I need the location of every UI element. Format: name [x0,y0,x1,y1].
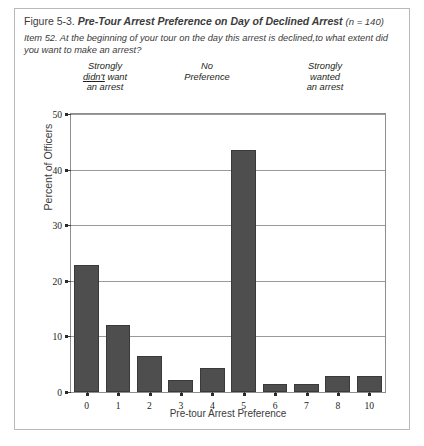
anchor-low-line2: didn't want [59,72,151,83]
bar [74,265,99,392]
bar [200,368,225,392]
bar [168,380,193,392]
x-axis-title: Pre-tour Arrest Preference [70,408,386,419]
y-gridline [71,281,385,282]
y-axis-tick-marker [65,391,68,394]
x-axis-tick-marker [117,393,120,396]
figure-item-text: Item 52. At the beginning of your tour o… [24,33,402,56]
bar [357,376,382,392]
bar [137,356,162,392]
figure-sample-size: (n = 140) [346,16,384,27]
y-axis-tick-marker [65,224,68,227]
x-axis-tick-marker [149,393,152,396]
y-axis-label: 0 [57,387,62,398]
y-axis-title: Percent of Officers [42,77,54,257]
y-axis-tick-marker [65,169,68,172]
bar [263,384,288,392]
bar [325,376,350,392]
y-axis-label: 10 [52,331,62,342]
anchor-label-high: Strongly wanted an arrest [281,61,369,93]
y-gridline [71,225,385,226]
figure-container: Figure 5-3. Pre-Tour Arrest Preference o… [14,8,410,430]
anchor-label-mid: No Preference [167,61,247,82]
plot-area: 0102030405001234567810 [70,113,386,393]
y-gridline [71,170,385,171]
anchor-low-underlined: didn't [83,72,105,82]
anchor-low-line3: an arrest [59,82,151,93]
y-axis-tick-marker [65,113,68,116]
y-gridline [71,114,385,115]
x-axis-tick-marker [211,393,214,396]
anchor-low-line1: Strongly [59,61,151,72]
anchor-mid-line2: Preference [167,72,247,83]
anchor-mid-line1: No [167,61,247,72]
anchor-high-line2: wanted [281,72,369,83]
y-axis-label: 20 [52,275,62,286]
x-axis-tick-marker [180,393,183,396]
bar [106,325,131,392]
x-axis-tick-marker [243,393,246,396]
figure-title: Pre-Tour Arrest Preference on Day of Dec… [78,15,343,27]
figure-caption: Figure 5-3. Pre-Tour Arrest Preference o… [24,15,404,28]
anchor-label-low: Strongly didn't want an arrest [59,61,151,93]
bar [231,150,256,392]
x-axis-tick-marker [306,393,309,396]
y-axis-tick-marker [65,335,68,338]
bar [294,384,319,392]
anchor-high-line3: an arrest [281,82,369,93]
x-axis-tick-marker [274,393,277,396]
anchor-low-rest: want [105,72,127,82]
figure-number: Figure 5-3. [24,15,75,27]
x-axis-tick-marker [86,393,89,396]
anchor-high-line1: Strongly [281,61,369,72]
y-axis-tick-marker [65,280,68,283]
x-axis-tick-marker [337,393,340,396]
x-axis-tick-marker [368,393,371,396]
